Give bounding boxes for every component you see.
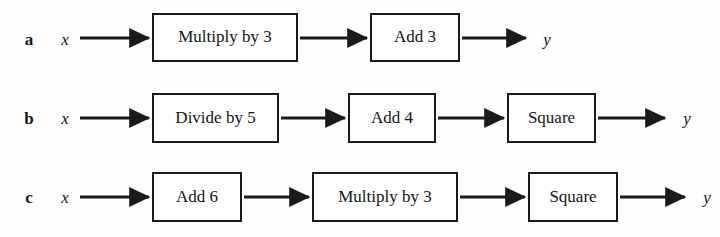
operation-box[interactable]: Add 3 [370, 13, 460, 62]
output-variable-c: y [696, 158, 718, 237]
operation-box-label: Multiply by 3 [178, 28, 272, 45]
operation-box-label: Multiply by 3 [338, 188, 432, 205]
output-variable-a: y [536, 0, 558, 79]
flow-row-b: b x Divide by 5 Add 4 Square y [0, 79, 720, 158]
operation-box[interactable]: Multiply by 3 [152, 13, 298, 62]
row-label-b: b [16, 79, 42, 158]
operation-box-label: Divide by 5 [175, 109, 255, 126]
input-variable-c: x [55, 158, 75, 237]
row-label-c: c [16, 158, 42, 237]
operation-box-label: Square [528, 109, 575, 126]
flow-row-c: c x Add 6 Multiply by 3 Square y [0, 158, 720, 237]
operation-box-label: Add 6 [176, 188, 218, 205]
input-variable-a: x [55, 0, 75, 79]
operation-box-label: Add 3 [394, 28, 436, 45]
operation-box-label: Add 4 [371, 109, 413, 126]
flow-row-a: a x Multiply by 3 Add 3 y [0, 0, 720, 79]
operation-box[interactable]: Divide by 5 [152, 93, 279, 143]
arrow-layer-a [0, 0, 720, 79]
operation-box[interactable]: Square [528, 172, 618, 222]
operation-box[interactable]: Add 6 [152, 172, 242, 222]
input-variable-b: x [55, 79, 75, 158]
operation-box-label: Square [549, 188, 596, 205]
operation-box[interactable]: Add 4 [348, 93, 436, 143]
row-label-a: a [16, 0, 42, 79]
function-machine-diagram: a x Multiply by 3 Add 3 y b x [0, 0, 720, 237]
output-variable-b: y [676, 79, 698, 158]
operation-box[interactable]: Multiply by 3 [312, 172, 458, 222]
operation-box[interactable]: Square [507, 93, 596, 143]
